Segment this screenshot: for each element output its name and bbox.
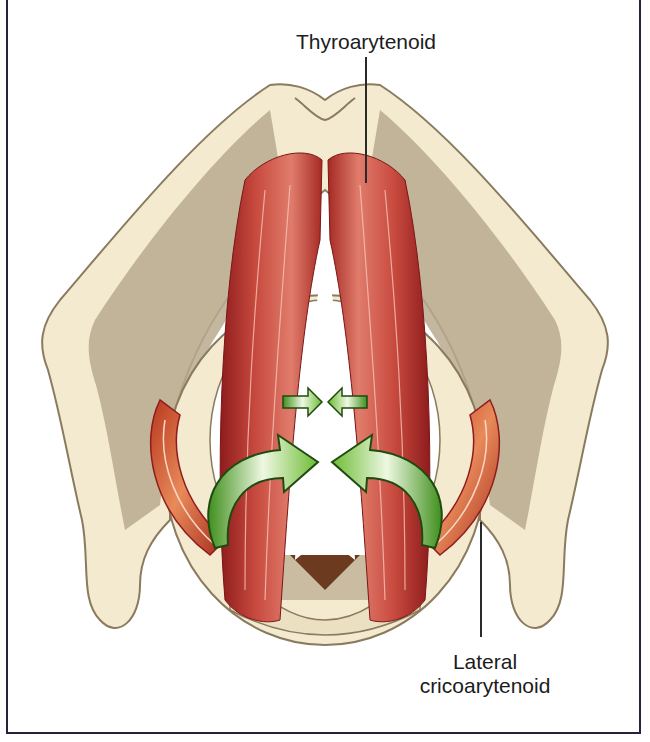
larynx-illustration: [0, 0, 650, 742]
thyroarytenoid-label: Thyroarytenoid: [266, 30, 466, 54]
lateral-cricoarytenoid-label: Lateral cricoarytenoid: [410, 650, 560, 698]
lateral-cricoarytenoid-label-line2: cricoarytenoid: [410, 674, 560, 698]
lateral-cricoarytenoid-label-line1: Lateral: [410, 650, 560, 674]
